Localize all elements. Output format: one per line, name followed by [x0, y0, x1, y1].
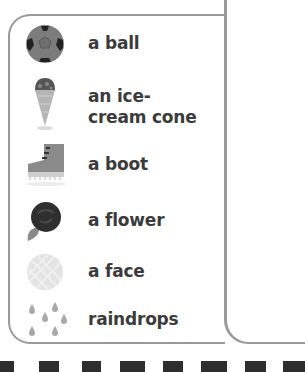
adjacent-panel-corner	[224, 290, 305, 344]
border-square	[245, 361, 266, 372]
list-item-label: a face	[88, 261, 145, 282]
border-square	[82, 361, 101, 372]
boot-icon	[22, 140, 68, 190]
face-icon	[22, 247, 68, 297]
border-square	[0, 361, 14, 372]
list-item-label: a boot	[88, 154, 148, 175]
decorative-square-border	[0, 361, 305, 372]
list-item-ball: a ball	[22, 19, 222, 69]
border-square	[39, 361, 59, 372]
list-item-label: a flower	[88, 210, 164, 231]
list-item-raindrops: raindrops	[22, 297, 222, 347]
list-item-label: a ball	[88, 33, 140, 54]
border-square	[201, 361, 227, 372]
list-item-face: a face	[22, 247, 222, 297]
list-item-flower: a flower	[22, 196, 222, 246]
soccer-ball-icon	[22, 19, 68, 69]
rose-flower-icon	[22, 196, 68, 246]
list-item-boot: a boot	[22, 140, 222, 190]
list-item-ice-cream: an ice-cream cone	[22, 75, 222, 133]
border-square	[283, 361, 305, 372]
ice-cream-cone-icon	[22, 75, 68, 133]
raindrops-icon	[22, 297, 68, 347]
border-square	[163, 361, 183, 372]
border-square	[120, 361, 145, 372]
list-item-label: raindrops	[88, 309, 179, 330]
list-item-label: an ice-cream cone	[88, 86, 198, 128]
